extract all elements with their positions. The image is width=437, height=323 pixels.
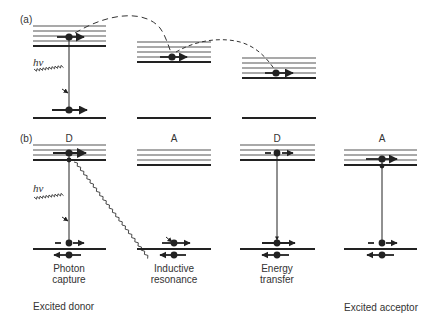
energy-transfer-diagram: (a) hν xyxy=(0,0,437,323)
panel-a-middle-levels xyxy=(137,42,211,118)
panel-a-right-levels xyxy=(242,58,316,118)
footer-excited-donor: Excited donor xyxy=(33,301,95,312)
panel-a-label: (a) xyxy=(20,14,32,25)
panel-a-right-electron xyxy=(265,69,293,76)
footer-excited-acceptor: Excited acceptor xyxy=(344,302,419,313)
photon-symbol-b: hν xyxy=(33,182,44,194)
panel-b-label: (b) xyxy=(20,133,32,144)
panel-a-middle-electron xyxy=(160,53,187,60)
header-donor-2: D xyxy=(273,133,280,144)
header-acceptor-1: A xyxy=(171,133,178,144)
photon-symbol-a: hν xyxy=(33,56,44,68)
dashed-hop-2 xyxy=(176,40,275,70)
photon-icon-b: hν xyxy=(33,182,68,221)
step-label-photon-line2: capture xyxy=(52,274,86,285)
dashed-hop-1 xyxy=(75,16,172,55)
step-label-transfer-line2: transfer xyxy=(260,274,295,285)
step-label-photon-line1: Photon xyxy=(53,263,85,274)
step-label-resonance-line2: resonance xyxy=(151,274,198,285)
panel-b-acceptor-1-levels xyxy=(137,150,211,249)
header-acceptor-2: A xyxy=(379,133,386,144)
step-label-transfer-line1: Energy xyxy=(261,263,293,274)
panel-a-donor-ground-electron xyxy=(52,106,87,113)
step-label-resonance-line1: Inductive xyxy=(154,263,194,274)
header-donor-1: D xyxy=(65,133,72,144)
resonance-wave xyxy=(74,162,172,259)
photon-icon-a: hν xyxy=(33,56,68,93)
panel-a-donor-excited-electron xyxy=(57,33,84,40)
